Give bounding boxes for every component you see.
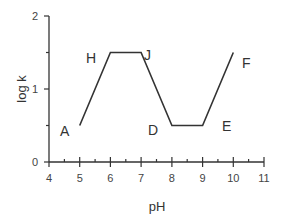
- y-tick-label: 0: [32, 156, 38, 168]
- x-tick-label: 5: [77, 172, 83, 184]
- x-tick-label: 4: [46, 172, 52, 184]
- x-tick-label: 9: [200, 172, 206, 184]
- point-label-d: D: [148, 122, 158, 138]
- y-axis-title: log k: [14, 75, 29, 103]
- chart: 2 1 0 4 5 6 7 8 9 10 11 pH log k A H: [0, 0, 282, 223]
- x-axis-title: pH: [149, 199, 166, 214]
- y-tick-label: 1: [32, 83, 38, 95]
- data-line: [80, 53, 234, 126]
- x-tick-label: 7: [138, 172, 144, 184]
- y-tick-label: 2: [32, 10, 38, 22]
- point-label-a: A: [60, 123, 70, 139]
- x-tick-label: 6: [107, 172, 113, 184]
- x-axis: 4 5 6 7 8 9 10 11: [46, 157, 270, 184]
- x-tick-label: 10: [227, 172, 239, 184]
- point-label-h: H: [86, 50, 96, 66]
- y-axis: 2 1 0: [32, 10, 49, 168]
- point-label-e: E: [222, 118, 231, 134]
- point-label-j: J: [144, 47, 151, 63]
- x-tick-label: 11: [258, 172, 269, 184]
- point-label-f: F: [242, 55, 251, 71]
- x-tick-label: 8: [169, 172, 175, 184]
